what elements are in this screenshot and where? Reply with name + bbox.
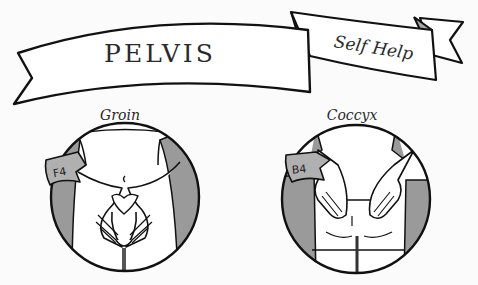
title-ribbon: PELVIS: [14, 24, 310, 104]
coccyx-tag-text: B4: [291, 162, 307, 176]
groin-label: Groin: [100, 107, 140, 123]
groin-tag: F4: [46, 152, 87, 185]
coccyx-label: Coccyx: [327, 107, 378, 123]
coccyx-illustration: B4: [270, 125, 440, 280]
groin-tag-text: F4: [52, 165, 67, 180]
title-text: PELVIS: [104, 39, 216, 68]
subtitle-ribbon: Self Help: [291, 12, 463, 80]
groin-illustration: F4: [40, 120, 210, 280]
illustration: Self Help PELVIS Groin Coccyx: [0, 0, 478, 285]
